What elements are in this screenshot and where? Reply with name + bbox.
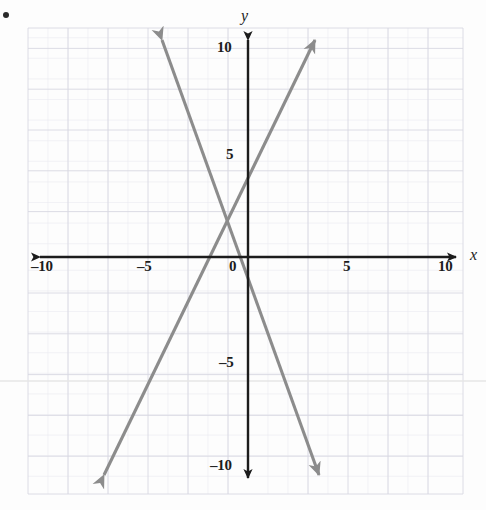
x-tick-label-10: 10: [438, 258, 452, 275]
x-tick-label-neg5: –5: [137, 258, 151, 275]
grid-major: [28, 28, 463, 494]
y-tick-label-neg10: –10: [210, 457, 232, 474]
graph-canvas: –10 –5 0 5 10 10 5 –5 –10 x y: [0, 0, 486, 510]
y-axis-label: y: [241, 7, 248, 25]
x-tick-label-neg10: –10: [31, 258, 53, 275]
y-tick-label-10: 10: [217, 39, 231, 56]
origin-label: 0: [229, 258, 236, 275]
axes-group: [40, 40, 456, 478]
y-tick-label-5: 5: [226, 146, 233, 163]
grid-minor: [28, 28, 463, 494]
x-tick-label-5: 5: [343, 258, 350, 275]
x-axis-label: x: [470, 246, 477, 264]
y-tick-label-neg5: –5: [219, 354, 233, 371]
coordinate-plane-figure: [0, 0, 486, 510]
